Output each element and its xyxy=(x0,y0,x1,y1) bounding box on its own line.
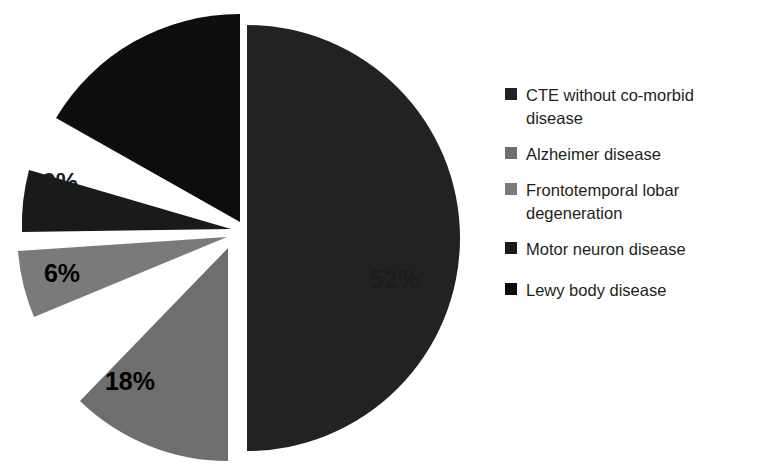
pie-label-cte: 52% xyxy=(370,265,420,293)
chart-legend: CTE without co-morbid disease Alzheimer … xyxy=(505,84,755,315)
legend-label-cte: CTE without co-morbid disease xyxy=(526,84,741,130)
pie-label-mnd: 9% xyxy=(42,168,78,196)
legend-label-alzheimer: Alzheimer disease xyxy=(526,143,661,166)
legend-label-ftld: Frontotemporal lobar degeneration xyxy=(526,179,741,225)
legend-item-alzheimer[interactable]: Alzheimer disease xyxy=(505,143,755,166)
legend-label-lewy: Lewy body disease xyxy=(526,279,666,302)
pie-svg: 52% 18% 6% 9% xyxy=(0,0,480,474)
legend-item-cte[interactable]: CTE without co-morbid disease xyxy=(505,84,755,130)
legend-swatch-icon xyxy=(505,147,517,159)
pie-label-alzheimer: 18% xyxy=(105,367,155,395)
legend-swatch-icon xyxy=(505,242,517,254)
legend-swatch-icon xyxy=(505,283,517,295)
legend-label-mnd: Motor neuron disease xyxy=(526,238,686,261)
pie-slice-cte[interactable] xyxy=(247,25,460,451)
legend-item-ftld[interactable]: Frontotemporal lobar degeneration xyxy=(505,179,755,225)
legend-item-mnd[interactable]: Motor neuron disease xyxy=(505,238,755,261)
legend-swatch-icon xyxy=(505,183,517,195)
pie-label-ftld: 6% xyxy=(44,259,80,287)
legend-item-lewy[interactable]: Lewy body disease xyxy=(505,279,755,302)
legend-swatch-icon xyxy=(505,88,517,100)
pie-chart-figure: 52% 18% 6% 9% CTE without co-morbid dise… xyxy=(0,0,763,474)
pie-plot-area: 52% 18% 6% 9% xyxy=(0,0,480,474)
